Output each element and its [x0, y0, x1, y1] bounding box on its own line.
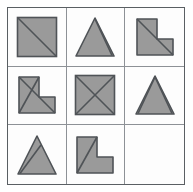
matrix-cell-r1c1[interactable] [8, 8, 67, 67]
l-shape-with-diagonal-icon [132, 14, 178, 60]
matrix-puzzle-root [0, 0, 193, 192]
matrix-cell-r3c1[interactable] [8, 125, 67, 184]
matrix-cell-r2c3[interactable] [125, 67, 184, 126]
matrix-cell-r1c2[interactable] [67, 8, 126, 67]
square-with-cross-icon [72, 72, 118, 118]
triangle-with-cross-icon [132, 72, 178, 118]
triangle-with-line-icon [72, 14, 118, 60]
l-shape-with-cross-icon [14, 72, 60, 118]
matrix-grid [7, 7, 185, 185]
matrix-cell-r2c2[interactable] [67, 67, 126, 126]
matrix-cell-r2c1[interactable] [8, 67, 67, 126]
matrix-cell-r3c3-empty[interactable] [125, 125, 184, 184]
matrix-cell-r1c3[interactable] [125, 8, 184, 67]
matrix-cell-r3c2[interactable] [67, 125, 126, 184]
square-with-diagonal-icon [14, 14, 60, 60]
triangle-with-line-left-icon [14, 132, 60, 178]
l-shape-with-antidiagonal-icon [72, 132, 118, 178]
